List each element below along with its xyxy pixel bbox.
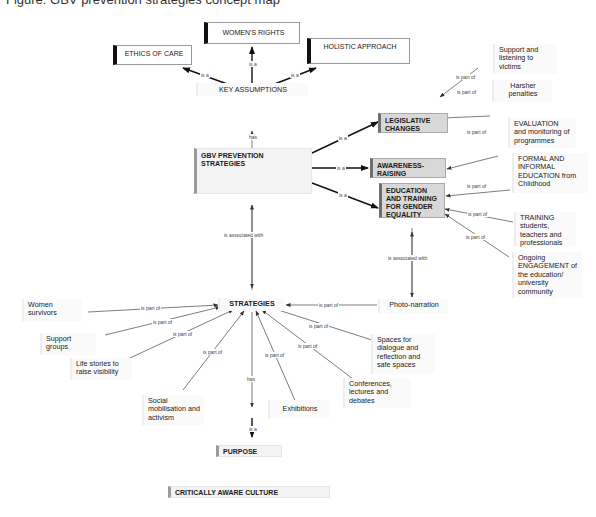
edge-label-is-a: is a: [338, 135, 348, 141]
edge-label-has: has: [248, 134, 258, 140]
edge-label-is-associated-with: is associated with: [387, 255, 428, 261]
node-photo-narration[interactable]: Photo-narration: [378, 299, 448, 313]
node-legislative-changes[interactable]: LEGISLATIVE CHANGES: [378, 113, 448, 133]
edge-label-is-part-of: is part of: [466, 129, 487, 135]
node-holistic-approach[interactable]: HOLISTIC APPROACH: [307, 38, 410, 64]
edge-label-is-a: is a: [200, 72, 210, 78]
node-conferences[interactable]: Conferences, lectures and debates: [343, 378, 411, 408]
edge-label-is-part-of: is part of: [140, 305, 161, 311]
edge-label-is-part-of: is part of: [455, 74, 476, 80]
node-ethics-of-care[interactable]: ETHICS OF CARE: [113, 45, 192, 65]
node-key-assumptions[interactable]: KEY ASSUMPTIONS: [196, 83, 308, 96]
edge-label-has: has: [246, 376, 256, 382]
node-training[interactable]: TRAINING students, teachers and professi…: [514, 212, 576, 246]
edge-label-is-a: is a: [338, 192, 348, 198]
node-social-mobilisation[interactable]: Social mobilisation and activism: [142, 395, 204, 425]
edge-label-is-part-of: is part of: [467, 211, 488, 217]
node-support-groups[interactable]: Support groups: [40, 333, 96, 355]
node-exhibitions[interactable]: Exhibitions: [268, 400, 330, 418]
node-ongoing-engagement[interactable]: Ongoing ENGAGEMENT of the education/ uni…: [512, 252, 582, 298]
node-womens-rights[interactable]: WOMEN'S RIGHTS: [204, 22, 300, 44]
edge-label-is-part-of: is part of: [466, 183, 487, 189]
node-spaces-for-dialogue[interactable]: Spaces for dialogue and reflection and s…: [371, 334, 435, 374]
node-purpose[interactable]: PURPOSE: [216, 445, 282, 457]
edge-label-is-part-of: is part of: [308, 323, 329, 329]
node-life-stories[interactable]: Life stories to raise visibility: [70, 358, 132, 380]
node-gbv-prevention-strategies[interactable]: GBV PREVENTION STRATEGIES: [194, 148, 312, 194]
node-support-listening[interactable]: Support and listening to victims: [493, 44, 557, 74]
node-awareness-raising[interactable]: AWARENESS-RAISING: [370, 158, 446, 178]
edge-label-is-a: is a: [336, 165, 346, 171]
edge-label-is-part-of: is part of: [202, 349, 223, 355]
node-harsher-penalties[interactable]: Harsher penalties: [492, 80, 552, 102]
edge-label-is-associated-with: is associated with: [223, 232, 264, 238]
node-women-survivors[interactable]: Women survivors: [22, 299, 82, 321]
node-strategies[interactable]: STRATEGIES: [218, 298, 284, 311]
edge-label-is-a: is a: [248, 61, 258, 67]
node-evaluation[interactable]: EVALUATION and monitoring of programmes: [508, 118, 576, 148]
edge-label-is-part-of: is part of: [152, 319, 173, 325]
edge-label-is-part-of: is part of: [172, 331, 193, 337]
edge-label-is-part-of: is part of: [318, 302, 339, 308]
node-critically-aware-culture[interactable]: CRITICALLY AWARE CULTURE: [168, 486, 330, 498]
node-formal-informal-education[interactable]: FORMAL AND INFORMAL EDUCATION from Child…: [512, 153, 588, 193]
edge-label-is-a: is a: [290, 72, 300, 78]
edge-label-is-part-of: is part of: [297, 343, 318, 349]
edge-label-is-part-of: is part of: [264, 352, 285, 358]
edge-label-is-part-of: is part of: [465, 234, 486, 240]
edge-label-is-part-of: is part of: [456, 89, 477, 95]
edge-label-is-a: is a: [248, 426, 258, 432]
node-education-training[interactable]: EDUCATION AND TRAINING FOR GENDER EQUALI…: [379, 183, 445, 218]
